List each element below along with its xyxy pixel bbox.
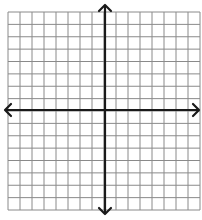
coordinate-plane (0, 0, 202, 220)
